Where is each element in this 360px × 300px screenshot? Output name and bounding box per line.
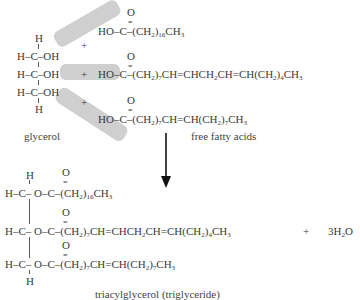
triglyceride-label: triacylglycerol (triglyceride): [95, 289, 220, 300]
ester-row-1: H–C– O–C–(CH2)16CH3: [5, 188, 112, 199]
bond-line: [29, 180, 30, 184]
ester-row-3: H–C– O–C–(CH2)7CH=CH(CH2)7CH3: [5, 259, 175, 270]
water-formula: 3H2O: [328, 226, 353, 237]
ester-row-2: H–C– O–C–(CH2)7CH=CHCH2CH=CH(CH2)4CH3: [5, 226, 231, 237]
plus-sign: +: [303, 226, 309, 237]
bond-line: [29, 270, 30, 274]
triglyceride-bottom-h: H: [26, 276, 34, 287]
bond-line: [29, 199, 30, 224]
bond-line: [29, 237, 30, 258]
